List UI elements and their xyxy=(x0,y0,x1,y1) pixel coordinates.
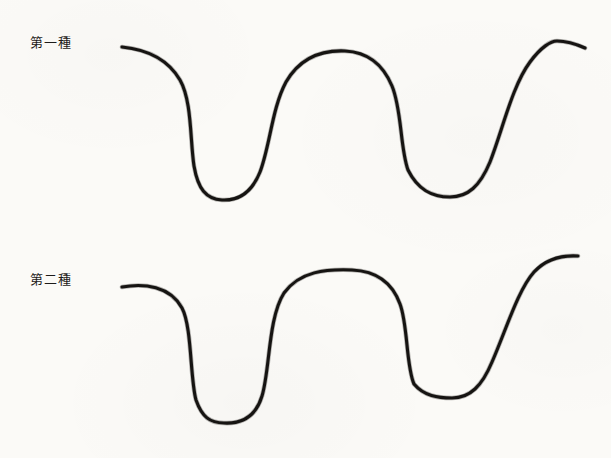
waveform-curve-second-type xyxy=(122,256,578,423)
waveform-chart xyxy=(0,0,611,458)
waveform-curve-first-type xyxy=(122,41,585,200)
figure-page: 第一種 第二種 xyxy=(0,0,611,458)
waveform-curve-first-type-stroke xyxy=(122,41,585,200)
waveform-curve-second-type-stroke xyxy=(122,256,578,423)
